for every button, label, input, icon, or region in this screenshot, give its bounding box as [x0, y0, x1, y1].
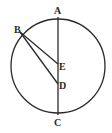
label-d: D: [59, 80, 66, 91]
geometry-diagram: A B E D C: [0, 0, 112, 133]
label-a: A: [54, 5, 62, 16]
segment-bd: [20, 32, 58, 84]
segment-be: [20, 32, 58, 64]
label-b: B: [14, 24, 21, 35]
label-c: C: [54, 117, 61, 128]
label-e: E: [59, 61, 66, 72]
